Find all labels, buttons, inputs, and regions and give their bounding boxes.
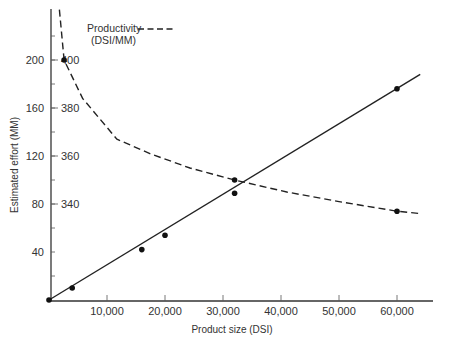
y-axis: 4080120160200340360380400 Estimated effo…: [9, 9, 79, 301]
secondary-y-tick-label: 340: [61, 198, 79, 210]
y-axis-label: Estimated effort (MM): [9, 117, 20, 213]
effort-data-point: [139, 247, 145, 253]
x-axis-ticks: 10,00020,00030,00040,00050,00060,000: [90, 295, 414, 317]
legend-label: Productivity: [87, 22, 142, 34]
productivity-data-point: [61, 57, 67, 63]
y-tick-label: 160: [26, 102, 44, 114]
effort-data-point: [394, 86, 400, 92]
x-axis: 10,00020,00030,00040,00050,00060,000 Pro…: [49, 295, 433, 335]
x-tick-label: 60,000: [380, 305, 414, 317]
productivity-data-point: [232, 177, 238, 183]
y-tick-label: 40: [32, 246, 44, 258]
x-tick-label: 40,000: [264, 305, 298, 317]
x-tick-label: 50,000: [322, 305, 356, 317]
effort-data-point: [69, 285, 75, 291]
x-tick-label: 10,000: [90, 305, 124, 317]
effort-productivity-chart: 4080120160200340360380400 Estimated effo…: [0, 0, 449, 347]
effort-data-point: [232, 190, 238, 196]
effort-data-point: [46, 297, 52, 303]
legend-sublabel: (DSI/MM): [91, 34, 136, 46]
series-layer: [46, 10, 420, 303]
effort-line: [49, 74, 420, 300]
x-tick-label: 30,000: [206, 305, 240, 317]
legend: Productivity (DSI/MM): [87, 22, 173, 46]
x-axis-label: Product size (DSI): [191, 324, 272, 335]
effort-data-point: [162, 232, 168, 238]
productivity-data-point: [394, 208, 400, 214]
y-tick-label: 120: [26, 150, 44, 162]
secondary-y-tick-label: 360: [61, 150, 79, 162]
y-tick-label: 80: [32, 198, 44, 210]
y-axis-ticks: 4080120160200340360380400: [26, 36, 80, 276]
secondary-y-tick-label: 380: [61, 102, 79, 114]
x-tick-label: 20,000: [148, 305, 182, 317]
y-tick-label: 200: [26, 54, 44, 66]
